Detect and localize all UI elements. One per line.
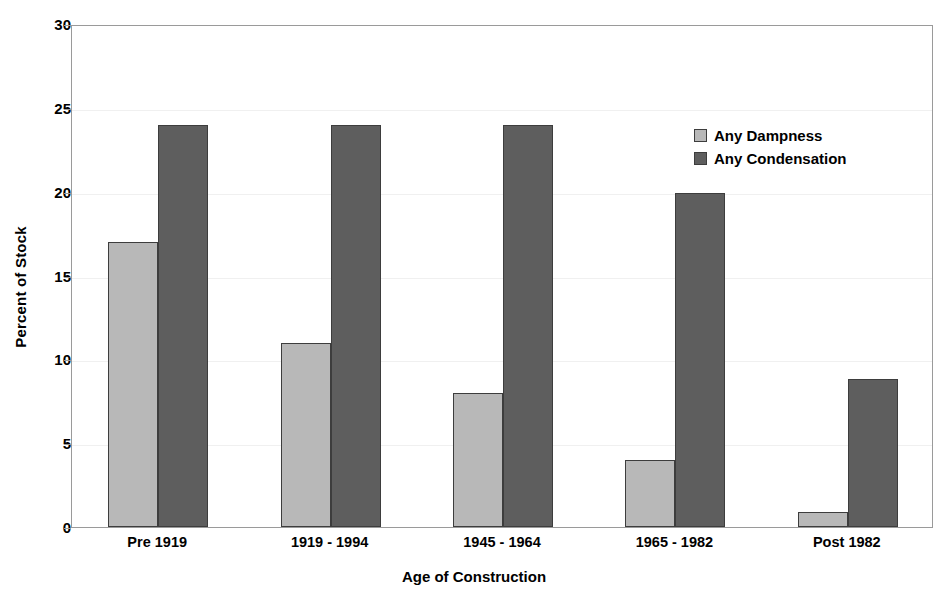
y-tick-mark bbox=[64, 444, 71, 445]
y-tick-label: 0 bbox=[11, 519, 71, 536]
x-tick-label: Pre 1919 bbox=[72, 534, 242, 550]
plot-area bbox=[71, 25, 933, 528]
bar[interactable] bbox=[158, 125, 208, 527]
y-tick-mark bbox=[64, 277, 71, 278]
x-axis-tick-labels: Pre 19191919 - 19941945 - 19641965 - 198… bbox=[71, 534, 933, 558]
x-axis-title: Age of Construction bbox=[0, 568, 948, 585]
bar[interactable] bbox=[453, 393, 503, 527]
y-tick-mark bbox=[64, 109, 71, 110]
y-tick-label: 5 bbox=[11, 435, 71, 452]
chart-legend: Any DampnessAny Condensation bbox=[690, 122, 851, 172]
y-tick-label: 10 bbox=[11, 351, 71, 368]
bar-group bbox=[453, 26, 553, 527]
bar-group bbox=[108, 26, 208, 527]
legend-item[interactable]: Any Condensation bbox=[694, 147, 847, 170]
y-axis-ticks: 051015202530 bbox=[0, 0, 71, 600]
bar[interactable] bbox=[331, 125, 381, 527]
bar-group bbox=[281, 26, 381, 527]
x-tick-label: 1965 - 1982 bbox=[589, 534, 759, 550]
y-tick-mark bbox=[64, 528, 71, 529]
bar-chart: Percent of Stock 051015202530 Pre 191919… bbox=[0, 0, 948, 600]
legend-label: Any Dampness bbox=[714, 127, 822, 144]
y-tick-label: 15 bbox=[11, 268, 71, 285]
bar[interactable] bbox=[281, 343, 331, 527]
bar[interactable] bbox=[675, 193, 725, 527]
y-tick-label: 30 bbox=[11, 16, 71, 33]
legend-swatch-icon bbox=[694, 129, 707, 142]
bar[interactable] bbox=[503, 125, 553, 527]
y-tick-mark bbox=[64, 25, 71, 26]
y-tick-mark bbox=[64, 193, 71, 194]
legend-swatch-icon bbox=[694, 152, 707, 165]
x-tick-label: 1945 - 1964 bbox=[417, 534, 587, 550]
x-tick-label: Post 1982 bbox=[762, 534, 932, 550]
bar[interactable] bbox=[798, 512, 848, 527]
y-tick-mark bbox=[64, 360, 71, 361]
bar[interactable] bbox=[848, 379, 898, 527]
legend-label: Any Condensation bbox=[714, 150, 847, 167]
y-tick-label: 20 bbox=[11, 184, 71, 201]
bar-group bbox=[625, 26, 725, 527]
x-tick-label: 1919 - 1994 bbox=[245, 534, 415, 550]
bar[interactable] bbox=[625, 460, 675, 527]
legend-item[interactable]: Any Dampness bbox=[694, 124, 847, 147]
bar-group bbox=[798, 26, 898, 527]
bar[interactable] bbox=[108, 242, 158, 527]
y-tick-label: 25 bbox=[11, 100, 71, 117]
